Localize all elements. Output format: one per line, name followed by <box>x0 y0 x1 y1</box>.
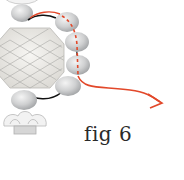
arrow-head-icon <box>148 94 162 108</box>
diagram-canvas <box>0 0 184 180</box>
new-thread-exit <box>78 76 160 102</box>
bottom-bead <box>11 90 37 110</box>
side-bead-4 <box>55 76 81 96</box>
side-bead-1 <box>55 12 79 32</box>
top-partial-bead <box>4 0 40 4</box>
figure-caption: fig 6 <box>84 122 132 146</box>
beading-diagram: fig 6 <box>0 0 184 180</box>
bead-cap-icon <box>4 112 47 135</box>
